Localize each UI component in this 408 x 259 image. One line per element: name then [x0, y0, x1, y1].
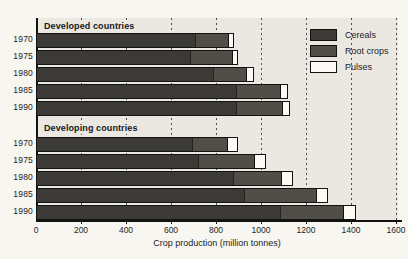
x-tick-label-1200: 1200	[297, 225, 316, 235]
year-label-developed-1985: 1985	[3, 84, 33, 97]
x-tick-label-600: 600	[164, 225, 178, 235]
segment-cereals-developed-1975	[37, 51, 190, 64]
bar-developing-1990	[36, 205, 356, 220]
segment-rootcrops-developing-1970	[192, 138, 227, 151]
x-tickmark-1400	[351, 220, 352, 224]
segment-rootcrops-developing-1985	[244, 189, 316, 202]
year-label-developed-1975: 1975	[3, 50, 33, 63]
bar-developing-1970	[36, 137, 238, 152]
x-axis-title: Crop production (million tonnes)	[36, 238, 398, 248]
bar-developing-1985	[36, 188, 328, 203]
x-tickmark-1000	[261, 220, 262, 224]
gridline-1600	[396, 18, 397, 220]
bar-developed-1970	[36, 33, 234, 48]
segment-cereals-developing-1975	[37, 155, 198, 168]
x-tickmark-1600	[396, 220, 397, 224]
legend-label-cereals: Cereals	[345, 30, 376, 40]
year-label-developing-1970: 1970	[3, 137, 33, 150]
segment-rootcrops-developed-1980	[213, 68, 247, 81]
segment-pulses-developing-1975	[254, 155, 265, 168]
crop-production-chart: Developed countriesDeveloping countries …	[0, 0, 408, 259]
year-label-developing-1975: 1975	[3, 154, 33, 167]
bar-developed-1975	[36, 50, 238, 65]
bar-developed-1990	[36, 101, 290, 116]
legend-label-root-crops: Root crops	[345, 46, 389, 56]
segment-cereals-developing-1980	[37, 172, 233, 185]
bar-developing-1980	[36, 171, 293, 186]
segment-rootcrops-developing-1980	[233, 172, 281, 185]
x-tickmark-200	[81, 220, 82, 224]
segment-pulses-developing-1980	[281, 172, 292, 185]
segment-cereals-developed-1980	[37, 68, 213, 81]
segment-rootcrops-developed-1990	[236, 102, 282, 115]
group-label-developing: Developing countries	[44, 123, 141, 134]
segment-rootcrops-developed-1985	[236, 85, 280, 98]
bar-developed-1985	[36, 84, 288, 99]
segment-cereals-developing-1990	[37, 206, 280, 219]
legend-item-pulses: Pulses	[310, 59, 389, 75]
x-tickmark-1200	[306, 220, 307, 224]
segment-cereals-developing-1970	[37, 138, 192, 151]
bar-developing-1975	[36, 154, 266, 169]
legend-swatch-root-crops	[310, 45, 337, 57]
bar-developed-1980	[36, 67, 254, 82]
x-tick-label-1000: 1000	[252, 225, 271, 235]
x-tickmark-600	[171, 220, 172, 224]
x-tick-label-400: 400	[119, 225, 133, 235]
year-label-developing-1990: 1990	[3, 205, 33, 218]
year-label-developed-1990: 1990	[3, 101, 33, 114]
x-tickmark-400	[126, 220, 127, 224]
legend-item-cereals: Cereals	[310, 27, 389, 43]
year-label-developing-1980: 1980	[3, 171, 33, 184]
segment-pulses-developed-1985	[280, 85, 287, 98]
segment-rootcrops-developing-1990	[280, 206, 343, 219]
segment-rootcrops-developed-1970	[195, 34, 229, 47]
x-tick-label-1400: 1400	[342, 225, 361, 235]
x-tick-label-800: 800	[209, 225, 223, 235]
segment-pulses-developing-1990	[343, 206, 355, 219]
year-label-developing-1985: 1985	[3, 188, 33, 201]
legend: CerealsRoot cropsPulses	[310, 27, 389, 75]
segment-rootcrops-developed-1975	[190, 51, 232, 64]
segment-pulses-developed-1980	[246, 68, 253, 81]
segment-cereals-developed-1970	[37, 34, 195, 47]
segment-pulses-developed-1990	[282, 102, 289, 115]
segment-cereals-developing-1985	[37, 189, 244, 202]
legend-swatch-pulses	[310, 61, 337, 73]
legend-item-root-crops: Root crops	[310, 43, 389, 59]
x-tick-labels-row: 02004006008001000120014001600	[36, 225, 398, 237]
legend-swatch-cereals	[310, 29, 337, 41]
year-label-developed-1980: 1980	[3, 67, 33, 80]
segment-pulses-developed-1975	[232, 51, 238, 64]
x-tick-label-200: 200	[74, 225, 88, 235]
segment-pulses-developing-1985	[316, 189, 327, 202]
x-tick-label-0: 0	[34, 225, 39, 235]
segment-pulses-developing-1970	[227, 138, 237, 151]
x-tick-label-1600: 1600	[387, 225, 406, 235]
year-label-developed-1970: 1970	[3, 33, 33, 46]
segment-cereals-developed-1985	[37, 85, 236, 98]
segment-rootcrops-developing-1975	[198, 155, 254, 168]
group-label-developed: Developed countries	[44, 21, 137, 32]
x-axis-line	[36, 220, 402, 222]
segment-pulses-developed-1970	[228, 34, 233, 47]
segment-cereals-developed-1990	[37, 102, 236, 115]
x-tickmark-800	[216, 220, 217, 224]
legend-label-pulses: Pulses	[345, 62, 372, 72]
